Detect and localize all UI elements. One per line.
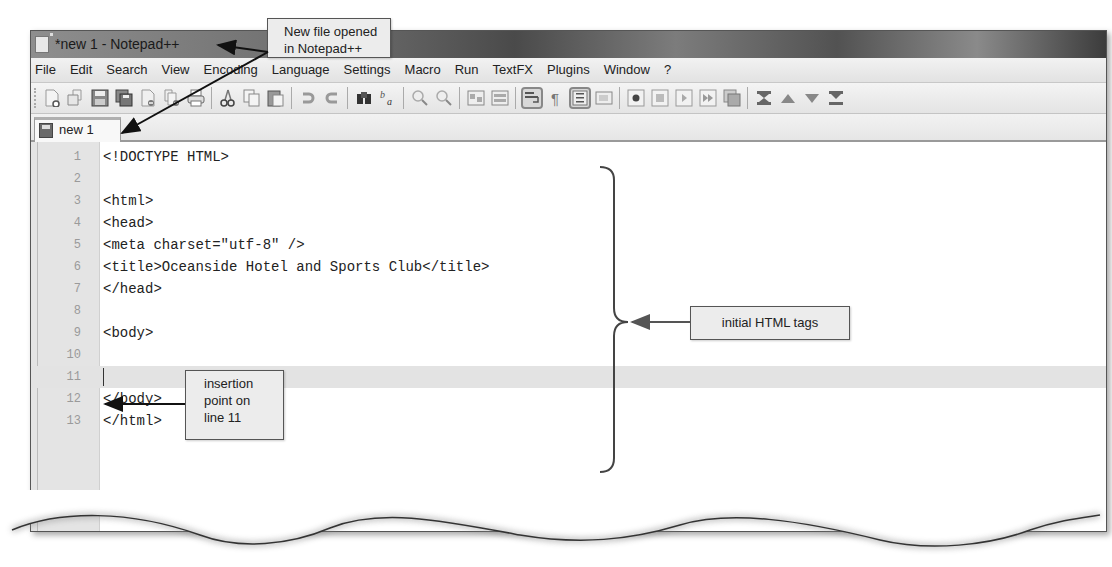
line-number: 5 [31,234,81,256]
menu-bar: FileEditSearchViewEncodingLanguageSettin… [31,58,1106,83]
menu-macro[interactable]: Macro [398,58,448,82]
sync-horizontal-scroll-icon[interactable] [491,89,509,107]
tab-bar: new 1 [31,114,1106,142]
save-all-icon[interactable] [115,89,133,107]
print-icon[interactable] [187,89,205,107]
toolbar-separator [747,87,748,109]
playback-icon[interactable] [675,89,693,107]
editor-line: 4 <head> [31,212,1106,234]
callout-insertion-point: insertion point on line 11 [185,370,284,440]
menu-help[interactable]: ? [657,58,678,82]
svg-text:a: a [387,96,392,107]
unsaved-file-icon [39,123,53,138]
user-defined-language-icon[interactable] [595,89,613,107]
replace-icon[interactable]: ba [379,89,397,107]
title-bar: *new 1 - Notepad++ [31,31,1106,58]
paste-icon[interactable] [267,89,285,107]
line-number: 6 [31,256,81,278]
find-icon[interactable] [355,89,373,107]
callout-initial-html-tags: initial HTML tags [690,306,850,340]
line-code: </head> [103,278,162,300]
insertion-point-caret [103,368,104,386]
toolbar-separator [291,87,292,109]
word-wrap-icon[interactable] [523,89,541,107]
toolbar-separator [459,87,460,109]
move-up-icon[interactable] [779,89,797,107]
trim-icon[interactable] [755,89,773,107]
line-code: <meta charset="utf-8" /> [103,234,305,256]
more-tools-icon[interactable] [827,89,845,107]
line-code: <head> [103,212,153,234]
copy-icon[interactable] [243,89,261,107]
menu-textfx[interactable]: TextFX [486,58,540,82]
line-code: <body> [103,322,153,344]
editor-line: 2 [31,168,1106,190]
close-all-icon[interactable] [163,89,181,107]
editor-line: 7 </head> [31,278,1106,300]
svg-text:¶: ¶ [551,90,559,107]
editor-line: 9 <body> [31,322,1106,344]
callout-text: in Notepad++ [284,40,390,57]
line-code: <title>Oceanside Hotel and Sports Club</… [103,256,489,278]
menu-view[interactable]: View [155,58,197,82]
show-all-characters-icon[interactable]: ¶ [547,89,565,107]
menu-plugins[interactable]: Plugins [540,58,597,82]
menu-search[interactable]: Search [99,58,154,82]
save-icon[interactable] [91,89,109,107]
line-code: </html> [103,410,162,432]
line-number: 12 [31,388,81,410]
line-number: 11 [31,366,81,388]
line-number: 4 [31,212,81,234]
menu-settings[interactable]: Settings [337,58,398,82]
line-code: </body> [103,388,162,410]
save-macro-icon[interactable] [723,89,741,107]
line-number: 13 [31,410,81,432]
menu-language[interactable]: Language [265,58,337,82]
close-file-icon[interactable] [139,89,157,107]
toolbar-grip[interactable] [34,88,38,108]
start-recording-icon[interactable] [627,89,645,107]
open-file-icon[interactable] [67,89,85,107]
line-number: 9 [31,322,81,344]
callout-new-file: New file opened in Notepad++ [267,18,391,58]
sync-vertical-scroll-icon[interactable] [467,89,485,107]
menu-encoding[interactable]: Encoding [197,58,265,82]
stop-recording-icon[interactable] [651,89,669,107]
toolbar-separator [347,87,348,109]
indent-guide-icon[interactable] [571,89,589,107]
editor-line: 5 <meta charset="utf-8" /> [31,234,1106,256]
toolbar: ba ¶ [31,83,1106,114]
toolbar-separator [211,87,212,109]
code-editor[interactable]: 1 <!DOCTYPE HTML> 2 3 <html> 4 <head> 5 … [31,142,1106,531]
callout-text: line 11 [204,409,283,426]
menu-file[interactable]: File [31,58,63,82]
editor-line: 10 [31,344,1106,366]
run-macro-multiple-icon[interactable] [699,89,717,107]
tab-new-1[interactable]: new 1 [34,117,121,143]
toolbar-separator [515,87,516,109]
new-file-icon[interactable] [43,89,61,107]
line-number: 10 [31,344,81,366]
move-down-icon[interactable] [803,89,821,107]
cut-icon[interactable] [219,89,237,107]
line-number: 8 [31,300,81,322]
menu-edit[interactable]: Edit [63,58,99,82]
zoom-in-icon[interactable] [411,89,429,107]
editor-line: 1 <!DOCTYPE HTML> [31,146,1106,168]
menu-window[interactable]: Window [597,58,657,82]
toolbar-separator [619,87,620,109]
window-title: *new 1 - Notepad++ [55,31,180,58]
undo-icon[interactable] [299,89,317,107]
notepadpp-app-icon [35,36,49,53]
zoom-out-icon[interactable] [435,89,453,107]
editor-line: 6 <title>Oceanside Hotel and Sports Club… [31,256,1106,278]
line-number: 3 [31,190,81,212]
menu-run[interactable]: Run [448,58,486,82]
redo-icon[interactable] [323,89,341,107]
line-number: 2 [31,168,81,190]
line-code: <html> [103,190,153,212]
callout-text: New file opened [284,23,390,40]
torn-edge-decoration [0,490,1112,567]
callout-text: initial HTML tags [722,315,818,330]
toolbar-separator [403,87,404,109]
